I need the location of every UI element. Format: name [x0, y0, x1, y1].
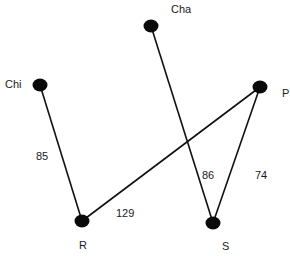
node-p-dot-icon: [253, 81, 268, 94]
node-r-dot-icon: [75, 215, 90, 228]
edge-p-s: [213, 87, 260, 223]
edge-p-r: [82, 87, 260, 221]
edge-weight-label: 74: [255, 169, 267, 181]
edge-weight-label: 85: [36, 150, 48, 162]
node-label-p: P: [282, 87, 289, 99]
node-label-cha: Cha: [171, 3, 192, 15]
node-label-r: R: [79, 239, 87, 251]
edge-cha-s: [151, 26, 213, 223]
node-chi-dot-icon: [33, 79, 48, 92]
edges-group: [40, 26, 260, 223]
node-s-dot-icon: [206, 217, 221, 230]
node-label-s: S: [222, 240, 229, 252]
graph-diagram: 858612974 ChiChaPRS: [0, 0, 290, 256]
node-label-chi: Chi: [5, 78, 22, 90]
edge-weight-label: 129: [116, 207, 134, 219]
node-cha-dot-icon: [144, 20, 159, 33]
nodes-group: [33, 20, 268, 230]
edge-weight-label: 86: [202, 169, 214, 181]
